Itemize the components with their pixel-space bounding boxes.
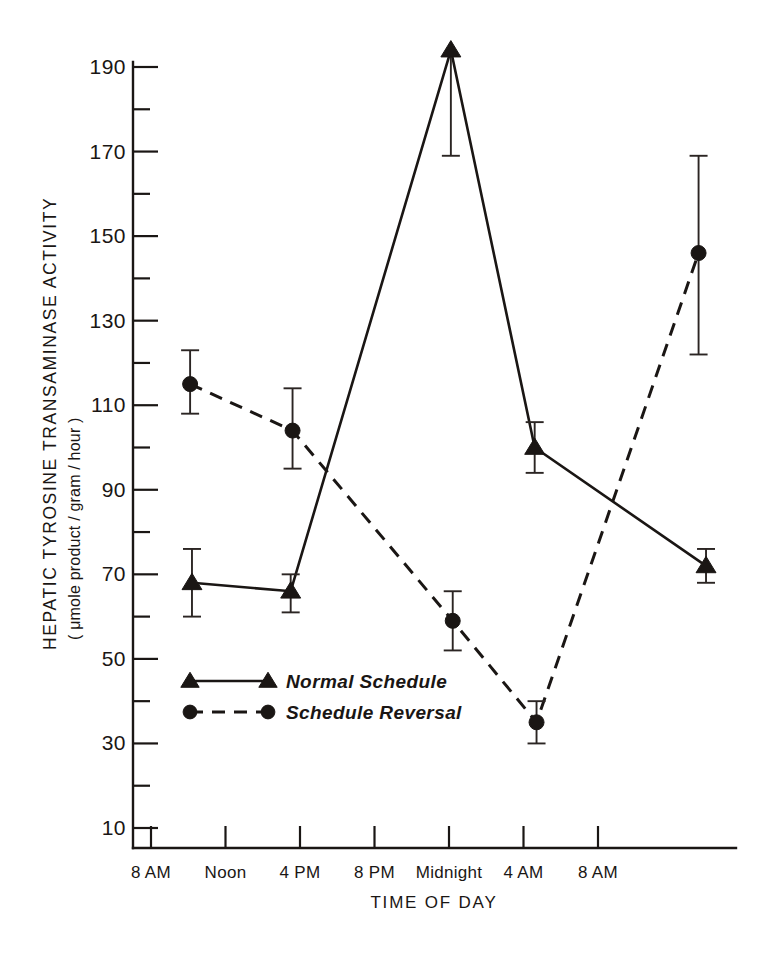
y-axis-subtitle: ( μmole product / gram / hour ): [66, 417, 83, 640]
data-point-circle: [445, 613, 460, 628]
data-point-circle: [529, 715, 544, 730]
y-tick-label: 170: [89, 140, 126, 163]
data-point-triangle: [182, 573, 202, 589]
x-tick-label: 8 AM: [578, 863, 618, 882]
y-tick-label: 90: [102, 478, 126, 501]
y-tick-label: 70: [102, 562, 126, 585]
axes-group: [133, 62, 736, 848]
x-tick-label: 8 AM: [131, 863, 171, 882]
series-layer: [181, 41, 716, 744]
y-tick-label: 150: [89, 224, 126, 247]
data-point-circle: [285, 423, 300, 438]
legend-label: Normal Schedule: [286, 671, 447, 692]
x-tick-label: 4 AM: [504, 863, 544, 882]
data-point-triangle: [696, 556, 716, 572]
y-tick-label: 10: [102, 816, 126, 839]
x-tick-label: Noon: [205, 863, 247, 882]
y-axis-title: HEPATIC TYROSINE TRANSAMINASE ACTIVITY: [40, 197, 60, 650]
x-tick-label: 4 PM: [280, 863, 321, 882]
data-point-circle: [183, 377, 198, 392]
y-tick-label: 110: [91, 393, 126, 416]
y-tick-label: 50: [102, 647, 126, 670]
y-axis-title-group: HEPATIC TYROSINE TRANSAMINASE ACTIVITY (…: [40, 197, 83, 650]
x-tick-label: 8 PM: [354, 863, 395, 882]
data-point-circle: [261, 705, 275, 719]
chart-legend: Normal ScheduleSchedule Reversal: [181, 671, 462, 723]
series-normal-schedule: [182, 41, 716, 617]
data-point-circle: [183, 705, 197, 719]
series-schedule-reversal: [181, 156, 707, 744]
y-tick-label-group: 1030507090110130150170190: [89, 55, 126, 839]
data-point-triangle: [525, 438, 545, 454]
series-line: [192, 50, 706, 591]
y-tick-label: 30: [102, 731, 126, 754]
y-tick-label: 190: [89, 55, 126, 78]
x-tick-label: Midnight: [416, 863, 483, 882]
error-bar: [442, 50, 460, 156]
x-tick-label-group: 8 AMNoon4 PM8 PMMidnight4 AM8 AM: [131, 863, 618, 882]
data-point-triangle: [441, 41, 461, 57]
legend-item-schedule-reversal[interactable]: Schedule Reversal: [183, 702, 462, 723]
y-tick-group: [133, 67, 158, 828]
data-point-circle: [691, 246, 706, 261]
legend-label: Schedule Reversal: [286, 702, 462, 723]
legend-item-normal-schedule[interactable]: Normal Schedule: [181, 671, 447, 692]
chart-canvas: HEPATIC TYROSINE TRANSAMINASE ACTIVITY (…: [0, 0, 764, 962]
x-axis-title: TIME OF DAY: [370, 893, 497, 912]
x-tick-group: [151, 826, 598, 848]
series-line: [190, 253, 698, 722]
figure-container: HEPATIC TYROSINE TRANSAMINASE ACTIVITY (…: [0, 0, 764, 962]
y-tick-label: 130: [89, 309, 126, 332]
